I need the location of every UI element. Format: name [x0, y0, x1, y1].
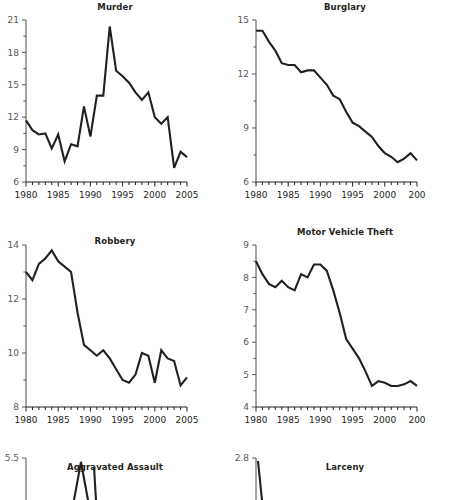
x-tick-label: 200 — [408, 190, 425, 200]
plot-area: 8101214198019851990199520002005 — [0, 225, 230, 440]
x-tick-label: 1990 — [79, 190, 102, 200]
x-tick-label: 1980 — [245, 190, 268, 200]
y-tick-label: 6 — [243, 337, 249, 347]
x-tick-label: 1980 — [245, 415, 268, 425]
x-tick-label: 1995 — [111, 415, 134, 425]
chart-panel-motor-vehicle-theft: Motor Vehicle Theft456789198019851990199… — [230, 225, 460, 440]
y-tick-label: 5.5 — [5, 453, 19, 463]
x-tick-label: 1985 — [47, 415, 70, 425]
y-tick-label: 9 — [243, 123, 249, 133]
y-tick-label: 9 — [13, 145, 19, 155]
x-tick-label: 2005 — [176, 190, 199, 200]
data-series-line — [256, 31, 417, 162]
data-series-line — [74, 462, 88, 500]
y-tick-label: 10 — [8, 348, 20, 358]
x-tick-label: 1985 — [277, 415, 300, 425]
data-series-line-fragment — [94, 467, 96, 500]
y-tick-label: 14 — [8, 240, 20, 250]
x-tick-label: 1995 — [341, 190, 364, 200]
y-tick-label: 4 — [243, 402, 249, 412]
y-tick-label: 6 — [243, 177, 249, 187]
data-series-line — [26, 250, 187, 385]
x-tick-label: 2000 — [373, 190, 396, 200]
data-series-line — [256, 261, 417, 386]
y-tick-label: 6 — [13, 177, 19, 187]
x-tick-label: 2000 — [373, 415, 396, 425]
x-tick-label: 1980 — [15, 190, 38, 200]
y-tick-label: 9 — [243, 240, 249, 250]
plot-area: 45678919801985199019952000200 — [230, 225, 460, 440]
chart-panel-murder: Murder6912151821198019851990199520002005 — [0, 0, 230, 225]
chart-panel-aggravated-assault: Aggravated Assault5.5 — [0, 440, 230, 500]
y-tick-label: 21 — [8, 15, 19, 25]
y-tick-label: 12 — [8, 112, 19, 122]
chart-panel-robbery: Robbery8101214198019851990199520002005 — [0, 225, 230, 440]
data-series-line — [258, 461, 262, 500]
x-tick-label: 2005 — [176, 415, 199, 425]
chart-panel-larceny: Larceny2.8 — [230, 440, 460, 500]
y-tick-label: 2.8 — [235, 453, 250, 463]
plot-area: 5.5 — [0, 440, 230, 500]
x-tick-label: 2000 — [143, 190, 166, 200]
x-tick-label: 1990 — [309, 415, 332, 425]
chart-panel-burglary: Burglary69121519801985199019952000200 — [230, 0, 460, 225]
x-tick-label: 1980 — [15, 415, 38, 425]
y-tick-label: 8 — [13, 402, 19, 412]
plot-area: 69121519801985199019952000200 — [230, 0, 460, 225]
x-tick-label: 2000 — [143, 415, 166, 425]
x-tick-label: 1985 — [277, 190, 300, 200]
y-tick-label: 15 — [8, 80, 19, 90]
y-tick-label: 12 — [8, 294, 19, 304]
y-tick-label: 18 — [8, 48, 20, 58]
x-tick-label: 1990 — [79, 415, 102, 425]
x-tick-label: 1995 — [341, 415, 364, 425]
y-tick-label: 12 — [238, 69, 249, 79]
y-tick-label: 8 — [243, 273, 249, 283]
x-tick-label: 1985 — [47, 190, 70, 200]
x-tick-label: 1990 — [309, 190, 332, 200]
data-series-line — [26, 26, 187, 167]
y-tick-label: 15 — [238, 15, 249, 25]
plot-area: 2.8 — [230, 440, 460, 500]
x-tick-label: 1995 — [111, 190, 134, 200]
plot-area: 6912151821198019851990199520002005 — [0, 0, 230, 225]
y-tick-label: 5 — [243, 370, 249, 380]
y-tick-label: 7 — [243, 305, 249, 315]
x-tick-label: 200 — [408, 415, 425, 425]
